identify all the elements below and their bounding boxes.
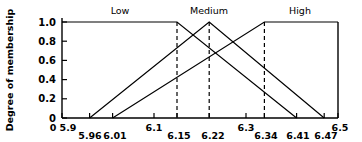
x-tick-label: 5.96 bbox=[78, 130, 102, 141]
set-label-high: High bbox=[289, 5, 311, 16]
set-label-medium: Medium bbox=[190, 5, 228, 16]
x-tick-label: 6.3 bbox=[238, 122, 255, 133]
y-axis-title-group: Degree of membership bbox=[4, 8, 15, 131]
guide-lines bbox=[177, 22, 264, 118]
y-axis-tick-marks bbox=[62, 22, 67, 118]
y-axis-tick-labels: 1.0 0.8 0.6 0.4 0.2 0 bbox=[38, 17, 56, 124]
x-tick-label: 5.9 bbox=[60, 122, 77, 133]
x-axis-tick-labels: 0 5.9 5.96 6.01 6.1 6.15 6.22 6.3 6.34 6… bbox=[50, 122, 349, 141]
membership-function-chart: Degree of membership 1.0 0.8 0.6 0.4 0.2… bbox=[0, 0, 362, 142]
y-tick-label: 0.4 bbox=[38, 74, 56, 85]
x-tick-label: 6.34 bbox=[254, 130, 278, 141]
membership-curve-medium bbox=[90, 22, 325, 118]
membership-curve-low bbox=[62, 22, 297, 118]
x-tick-label: 6.22 bbox=[201, 130, 224, 141]
y-tick-label: 0.6 bbox=[38, 55, 56, 66]
set-labels: Low Medium High bbox=[111, 5, 311, 16]
axis-frame bbox=[62, 18, 338, 118]
membership-curve-high bbox=[113, 22, 338, 118]
y-tick-label: 1.0 bbox=[38, 17, 56, 28]
x-tick-label: 6.1 bbox=[146, 122, 163, 133]
x-tick-label: 6.01 bbox=[103, 130, 126, 141]
set-label-low: Low bbox=[111, 5, 130, 16]
y-tick-label: 0.8 bbox=[38, 36, 56, 47]
x-tick-label: 6.41 bbox=[286, 130, 309, 141]
chart-canvas: Degree of membership 1.0 0.8 0.6 0.4 0.2… bbox=[0, 0, 362, 142]
y-tick-label: 0.2 bbox=[38, 93, 56, 104]
x-tick-label: 6.15 bbox=[167, 130, 190, 141]
origin-label: 0 bbox=[50, 122, 57, 133]
y-axis-title: Degree of membership bbox=[4, 8, 15, 131]
membership-curves bbox=[62, 22, 338, 118]
x-tick-label: 6.5 bbox=[332, 122, 349, 133]
